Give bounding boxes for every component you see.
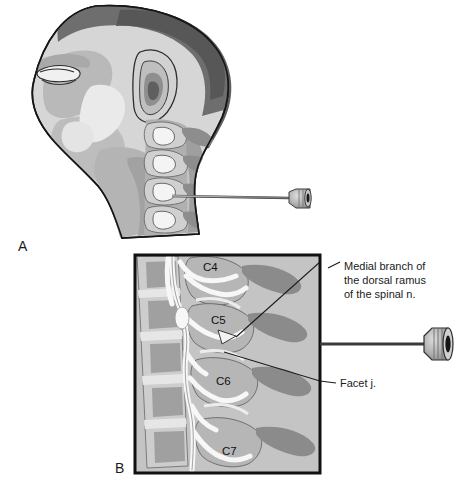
dorsal-root-ganglion bbox=[175, 307, 189, 329]
needle-hub-b bbox=[424, 328, 453, 360]
vertebra-label-c5: C5 bbox=[211, 314, 226, 326]
needle-hub-a bbox=[289, 189, 311, 208]
vertebra-label-c6: C6 bbox=[216, 375, 231, 387]
vertebra-label-c7: C7 bbox=[222, 445, 237, 457]
anatomy-figure: A bbox=[0, 0, 462, 491]
callout-medial-branch-line-1: Medial branch of bbox=[344, 260, 426, 272]
callout-medial-branch-line-3: of the spinal n. bbox=[344, 288, 416, 300]
callout-facet-joint-label: Facet j. bbox=[340, 377, 376, 389]
panel-a-letter: A bbox=[18, 238, 28, 254]
vertebra-label-c4: C4 bbox=[203, 261, 218, 273]
panel-b-letter: B bbox=[115, 460, 124, 476]
callout-medial-branch-line-2: the dorsal ramus bbox=[344, 274, 426, 286]
eye bbox=[37, 66, 80, 82]
